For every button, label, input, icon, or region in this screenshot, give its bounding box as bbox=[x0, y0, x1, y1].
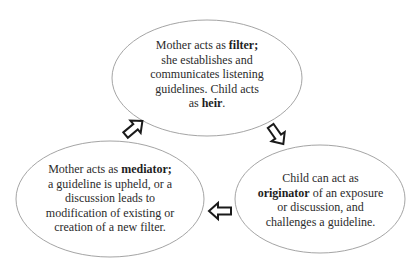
text-line: discussion leads to bbox=[28, 191, 192, 206]
text-line: creation of a new filter. bbox=[28, 220, 192, 235]
text-line: a guideline is upheld, or a bbox=[28, 177, 192, 192]
text-line: or discussion, and bbox=[248, 200, 393, 215]
text-line: challenges a guideline. bbox=[248, 215, 393, 230]
text-line: originator of an exposure bbox=[248, 186, 393, 201]
arrow-down-right-icon bbox=[264, 121, 290, 148]
node-filter-text: Mother acts as filter; she establishes a… bbox=[132, 38, 282, 111]
node-originator-text: Child can act as originator of an exposu… bbox=[248, 171, 393, 229]
node-mediator-text: Mother acts as mediator; a guideline is … bbox=[28, 162, 192, 235]
text-line: Child can act as bbox=[248, 171, 393, 186]
text-line: modification of existing or bbox=[28, 206, 192, 221]
text-line: Mother acts as mediator; bbox=[28, 162, 192, 177]
role-originator-label: originator bbox=[258, 186, 310, 200]
text-line: communicates listening bbox=[132, 67, 282, 82]
text-line: as heir. bbox=[132, 96, 282, 111]
text-line: Mother acts as filter; bbox=[132, 38, 282, 53]
text-line: guidelines. Child acts bbox=[132, 82, 282, 97]
role-mediator-label: mediator; bbox=[121, 162, 172, 176]
arrow-left-icon bbox=[209, 203, 231, 219]
role-filter-label: filter; bbox=[229, 38, 258, 52]
text-line: she establishes and bbox=[132, 53, 282, 68]
role-heir-label: heir bbox=[202, 96, 223, 110]
arrow-up-right-icon bbox=[120, 115, 147, 141]
